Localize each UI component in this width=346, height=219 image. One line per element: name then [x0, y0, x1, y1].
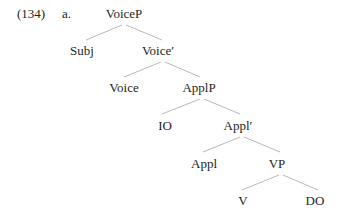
edge-voiceP-subj	[86, 25, 122, 40]
example-sublabel: a.	[62, 7, 71, 21]
edge-vp-v	[242, 175, 279, 190]
syntax-tree: (134) a. VoiceP Subj Voice′ Voice ApplP …	[0, 0, 346, 219]
edge-vp-do	[283, 175, 318, 190]
node-appl: Appl	[191, 157, 217, 171]
edge-applP-io	[162, 99, 200, 114]
edge-applbar-appl	[203, 137, 240, 152]
node-do: DO	[306, 194, 325, 208]
node-voiceP: VoiceP	[106, 7, 143, 21]
edge-voicebar-voice	[124, 62, 161, 77]
node-v: V	[238, 194, 247, 208]
edge-voiceP-voicebar	[126, 25, 162, 40]
node-applP: ApplP	[182, 81, 215, 95]
node-subj: Subj	[70, 44, 94, 58]
node-vp: VP	[269, 157, 286, 171]
edge-voicebar-applP	[165, 62, 200, 77]
node-voice-bar: Voice′	[142, 44, 174, 58]
node-voice: Voice	[109, 81, 138, 95]
node-io: IO	[158, 119, 172, 133]
edge-applbar-vp	[244, 137, 280, 152]
tree-edges	[0, 0, 346, 219]
node-appl-bar: Appl′	[224, 119, 253, 133]
edge-applP-applbar	[204, 99, 240, 114]
example-number: (134)	[17, 7, 45, 21]
